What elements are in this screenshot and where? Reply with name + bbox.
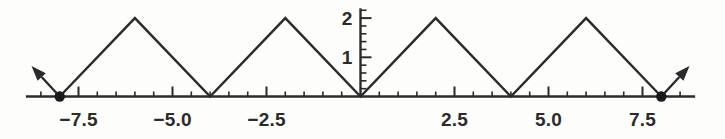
left-continuation-arrow — [32, 66, 60, 97]
x-axis-tick-label: −7.5 — [59, 110, 97, 129]
triangle-wave-figure: −7.5−5.0−2.52.55.07.5 12 — [0, 0, 725, 139]
x-axis-tick-label: 2.5 — [441, 110, 468, 129]
y-axis-tick-label: 1 — [335, 48, 353, 67]
x-axis-tick-label: 5.0 — [535, 110, 562, 129]
right-continuation-arrow — [661, 66, 689, 97]
x-axis-tick-label: −5.0 — [153, 110, 191, 129]
plot-canvas — [0, 0, 725, 139]
right-endpoint-dot — [656, 91, 666, 101]
x-axis-tick-label: 7.5 — [629, 110, 656, 129]
y-axis-tick-label: 2 — [335, 9, 353, 28]
x-axis-tick-label: −2.5 — [247, 110, 285, 129]
left-endpoint-dot — [55, 91, 65, 101]
y-axis-major-tick-group — [361, 18, 372, 57]
